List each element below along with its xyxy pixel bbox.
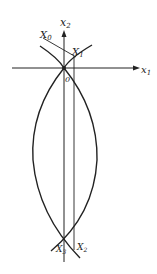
origin-label: 0 <box>65 75 70 84</box>
x1-axis-arrow-icon <box>133 66 140 71</box>
left-arc <box>33 45 92 258</box>
x1-axis-label: x1 <box>141 64 151 77</box>
x2-axis-label: x2 <box>60 16 71 30</box>
point-x1-label: X1 <box>71 46 84 59</box>
diagram-canvas: x2 x1 0 X0 X1 X3 X2 <box>0 0 157 274</box>
point-x3-label: X3 <box>55 244 66 255</box>
point-x0-label: X0 <box>39 29 52 42</box>
x2-axis-arrow-icon <box>62 30 67 37</box>
point-x2-label: X2 <box>76 242 87 253</box>
origin-point <box>62 66 66 70</box>
